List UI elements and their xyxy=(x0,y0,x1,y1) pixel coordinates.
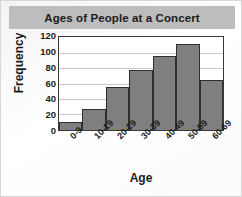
x-tick-cell: 20-29 xyxy=(105,132,129,172)
x-tick-cell: 50-59 xyxy=(177,132,201,172)
plot-wrapper: Frequency 120 100 80 60 40 20 0 0-910-19… xyxy=(1,1,242,197)
y-tick-label: 40 xyxy=(10,95,56,105)
x-axis-tick-labels: 0-910-1920-2930-3940-4950-5960-69 xyxy=(58,132,224,172)
y-tick-label: 0 xyxy=(10,126,56,136)
bar-series xyxy=(59,37,223,130)
x-tick-cell: 40-49 xyxy=(153,132,177,172)
plot-area xyxy=(58,36,224,131)
x-tick-cell: 10-19 xyxy=(82,132,106,172)
x-tick-cell: 0-9 xyxy=(58,132,82,172)
y-tick-label: 120 xyxy=(10,31,56,41)
x-tick-cell: 30-39 xyxy=(129,132,153,172)
y-tick-label: 20 xyxy=(10,110,56,120)
y-tick-label: 60 xyxy=(10,79,56,89)
y-axis-tick-labels: 120 100 80 60 40 20 0 xyxy=(4,36,56,131)
x-axis-title: Age xyxy=(58,171,224,185)
y-tick-label: 100 xyxy=(10,47,56,57)
chart-card: Ages of People at a Concert Frequency 12… xyxy=(0,0,242,197)
y-tick-label: 80 xyxy=(10,63,56,73)
x-tick-cell: 60-69 xyxy=(200,132,224,172)
